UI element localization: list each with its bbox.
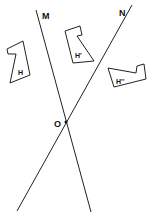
label-h-prime: H' <box>75 52 82 59</box>
label-n: N <box>119 8 126 18</box>
shape-h <box>7 41 30 83</box>
diagram: M N O H H' H'' <box>0 0 155 216</box>
shape-h-double-prime <box>108 64 146 87</box>
line-m <box>36 10 91 212</box>
label-h-double-prime: H'' <box>116 78 125 85</box>
line-n <box>17 5 132 211</box>
label-h: H <box>18 69 23 76</box>
label-o: O <box>54 119 61 129</box>
label-m: M <box>42 11 50 21</box>
point-o <box>65 121 68 124</box>
figure-svg: M N O H H' H'' <box>0 0 155 216</box>
